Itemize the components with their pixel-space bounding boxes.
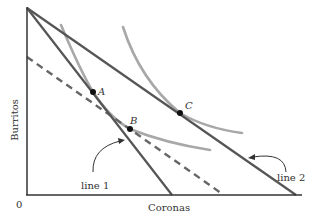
point-c-label: C	[185, 100, 193, 111]
point-b	[127, 126, 133, 132]
line-1-arrowhead-icon	[118, 138, 125, 144]
point-c	[177, 110, 183, 116]
x-axis-label: Coronas	[148, 202, 190, 213]
point-b-label: B	[129, 115, 137, 126]
line-2-arrowhead-icon	[248, 154, 255, 160]
indifference-curve-ab	[61, 25, 210, 150]
budget-line-2	[27, 8, 296, 195]
line-1-label: line 1	[81, 180, 109, 191]
y-axis-label: Burritos	[9, 99, 20, 141]
point-a	[90, 89, 96, 95]
budget-line-1	[27, 8, 172, 195]
budget-indifference-diagram: A B C line 1 line 2 0 Coronas Burritos	[0, 0, 313, 217]
origin-label: 0	[16, 199, 22, 210]
line-2-label: line 2	[277, 172, 305, 183]
point-a-label: A	[97, 86, 105, 97]
line-1-arrow	[93, 141, 120, 172]
